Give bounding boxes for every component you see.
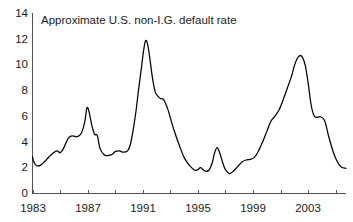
- y-tick-label-10: 10: [15, 58, 28, 70]
- y-axis-tick-labels: 14 12 10 8 6 4 2 0: [15, 7, 28, 199]
- y-tick-label-4: 4: [22, 136, 29, 148]
- y-tick-label-2: 2: [22, 161, 28, 173]
- y-tick-label-12: 12: [15, 33, 28, 45]
- default-rate-line-chart: 14 12 10 8 6 4 2 0 1983 1987 1991 1995 1…: [0, 0, 353, 222]
- chart-title: Approximate U.S. non-I.G. default rate: [41, 14, 237, 26]
- default-rate-series-line: [33, 40, 347, 173]
- y-tick-label-6: 6: [22, 110, 28, 122]
- x-tick-label-1983: 1983: [20, 202, 46, 214]
- x-tick-label-2003: 2003: [295, 202, 321, 214]
- x-axis-tick-labels: 1983 1987 1991 1995 1999 2003: [20, 202, 321, 214]
- x-tick-label-1999: 1999: [240, 202, 266, 214]
- x-tick-label-1995: 1995: [185, 202, 211, 214]
- chart-container: 14 12 10 8 6 4 2 0 1983 1987 1991 1995 1…: [0, 0, 353, 222]
- y-tick-label-14: 14: [15, 7, 28, 19]
- y-tick-label-0: 0: [22, 187, 28, 199]
- x-tick-label-1991: 1991: [130, 202, 156, 214]
- y-tick-label-8: 8: [22, 84, 28, 96]
- x-tick-label-1987: 1987: [75, 202, 101, 214]
